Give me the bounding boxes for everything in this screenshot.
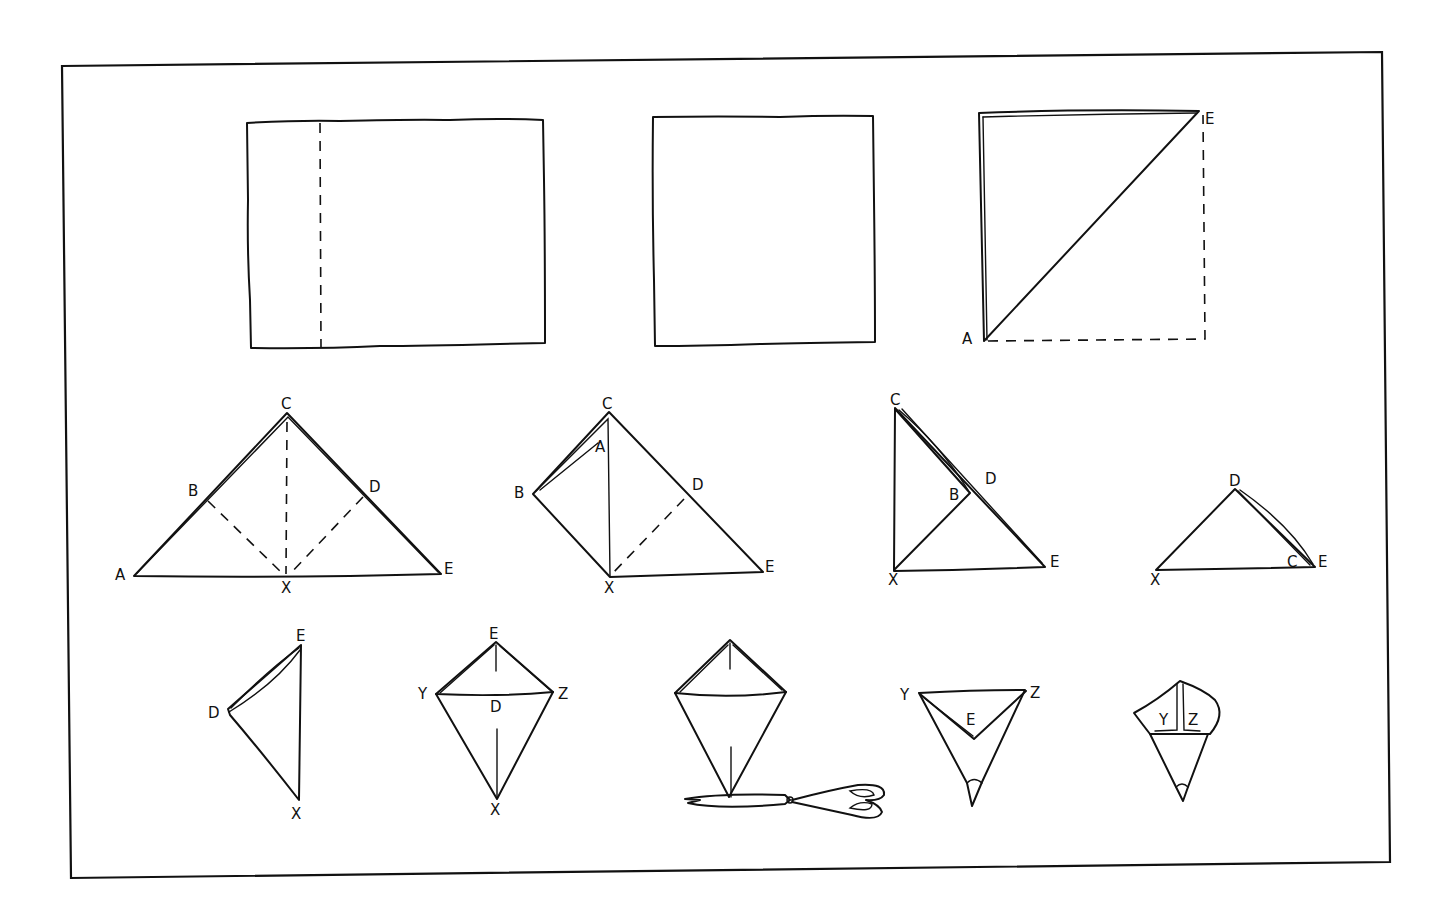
step-12-cup-finished: Y Z	[1134, 681, 1219, 801]
label-y: Y	[1158, 711, 1169, 729]
step-4-triangle: C B D A X E	[115, 395, 453, 597]
label-e: E	[489, 625, 498, 643]
step-9-kite: E Y D Z X	[417, 625, 568, 819]
label-b: B	[949, 486, 959, 504]
label-b: B	[188, 482, 198, 500]
step-6-right-angle: C D B X E	[888, 391, 1059, 589]
label-a: A	[962, 330, 973, 348]
label-x: X	[604, 579, 614, 597]
label-d: D	[692, 476, 704, 494]
label-c: C	[602, 395, 612, 413]
label-z: Z	[1030, 684, 1040, 702]
scissors-icon	[685, 785, 884, 818]
label-x: X	[281, 579, 291, 597]
label-b: B	[514, 484, 524, 502]
label-c: C	[1287, 553, 1297, 571]
step-5-left-fold: C A B D X E	[514, 395, 774, 597]
label-d: D	[369, 478, 381, 496]
step-11-cup-open: Y Z E	[899, 684, 1040, 806]
step-8-cone: E D X	[208, 627, 305, 823]
step-7-small-triangle: D C E X	[1150, 472, 1327, 589]
label-e: E	[966, 711, 975, 729]
step-2-square	[653, 116, 875, 346]
label-e: E	[296, 627, 305, 645]
label-d: D	[490, 698, 502, 716]
label-d: D	[208, 704, 220, 722]
step-10-kite-scissors	[675, 640, 884, 818]
label-y: Y	[417, 685, 428, 703]
label-z: Z	[1188, 711, 1198, 729]
label-x: X	[888, 571, 898, 589]
step-1-rectangle	[247, 119, 545, 348]
step-3-diagonal-fold: E A	[962, 110, 1214, 348]
label-z: Z	[558, 685, 568, 703]
label-c: C	[281, 395, 291, 413]
label-d: D	[1229, 472, 1241, 490]
label-e: E	[765, 558, 774, 576]
label-x: X	[1150, 571, 1160, 589]
label-x: X	[490, 801, 500, 819]
label-x: X	[291, 805, 301, 823]
outer-frame	[62, 52, 1390, 878]
label-d: D	[985, 470, 997, 488]
label-a: A	[595, 438, 606, 456]
label-c: C	[890, 391, 900, 409]
label-e: E	[1205, 110, 1214, 128]
label-e: E	[1318, 553, 1327, 571]
folding-diagram: E A C B D A X E C A B D X E C D B X	[0, 0, 1439, 922]
label-e: E	[1050, 553, 1059, 571]
label-y: Y	[899, 686, 910, 704]
label-e: E	[444, 560, 453, 578]
label-a: A	[115, 566, 126, 584]
